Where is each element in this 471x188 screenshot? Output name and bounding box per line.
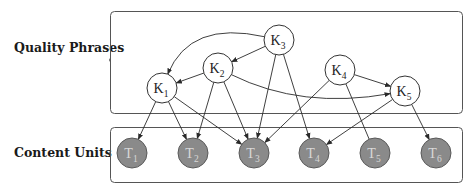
node-k5: K5 (390, 76, 420, 106)
content-units-box (111, 128, 463, 183)
node-t5: T5 (360, 138, 390, 168)
node-t3: T3 (239, 138, 269, 168)
edge-k5-t6 (412, 104, 430, 139)
edge-k5-t4 (326, 99, 392, 144)
node-t1: T1 (117, 138, 147, 168)
node-k2: K2 (203, 53, 233, 83)
edge-k2-t3 (224, 82, 248, 139)
nodes-layer: K1K2K3K4K5T1T2T3T4T5T6 (117, 25, 451, 168)
edge-k1-t2 (168, 102, 186, 140)
edge-k3-k2 (232, 46, 266, 61)
edge-k1-t3 (174, 97, 241, 145)
edge-k4-t3 (265, 80, 329, 142)
node-k1: K1 (147, 73, 177, 103)
node-k4: K4 (325, 55, 355, 85)
edge-k4-k5 (354, 75, 390, 87)
edge-k2-k1 (176, 73, 204, 83)
edge-k3-t3 (257, 55, 276, 139)
node-t6: T6 (421, 138, 451, 168)
phrase-unit-graph: K1K2K3K4K5T1T2T3T4T5T6 (0, 0, 471, 188)
node-k3: K3 (264, 25, 294, 55)
edge-k2-t2 (197, 82, 214, 138)
edge-k1-t1 (138, 102, 155, 140)
node-t2: T2 (178, 138, 208, 168)
edge-k4-t5 (346, 84, 369, 139)
node-t4: T4 (299, 138, 329, 168)
